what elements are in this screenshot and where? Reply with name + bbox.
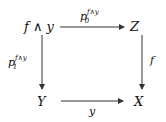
label-right-arrow: f <box>150 55 154 66</box>
label-left-arrow: pf∧y1 <box>8 55 17 71</box>
label-top-arrow: pf∧y0 <box>80 9 89 25</box>
node-f-wedge-y: f ∧ y <box>24 20 54 33</box>
node-y: Y <box>37 95 46 108</box>
node-x: X <box>134 95 143 108</box>
label-bottom-arrow: y <box>89 106 95 117</box>
node-z: Z <box>130 20 139 33</box>
